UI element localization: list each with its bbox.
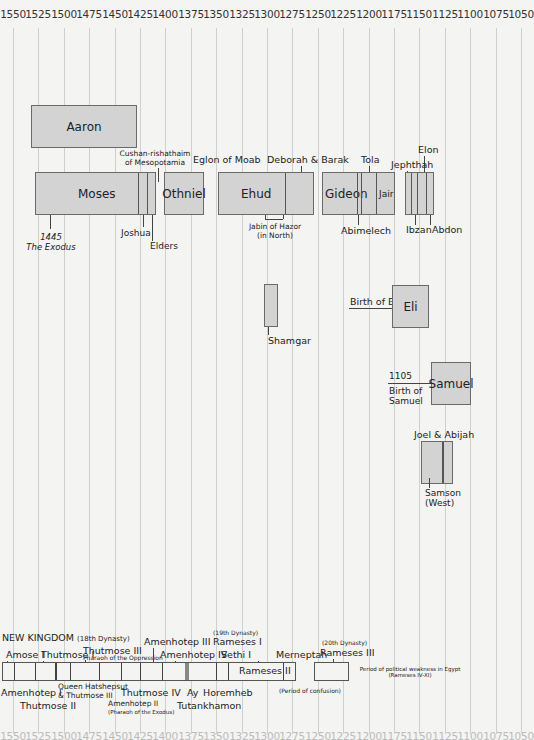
rameses2-label: Rameses II — [239, 665, 291, 676]
deborah-label: Deborah & Barak — [267, 155, 349, 166]
jabin-bracket — [265, 219, 283, 220]
samuel-label: Samuel — [429, 377, 474, 391]
abdon-tick — [430, 215, 431, 225]
eglon-label: Eglon of Moab — [193, 155, 261, 166]
new-kingdom-title: NEW KINGDOM — [2, 632, 74, 643]
gideon-box: Gideon Jair — [322, 172, 395, 215]
gridline — [496, 28, 497, 734]
amenhotep2-note: (Pharaoh of the Exodus) — [108, 709, 174, 715]
amenhotep3-label: Amenhotep III — [144, 637, 210, 648]
ibzan-divider — [411, 173, 412, 214]
elders-tick — [152, 215, 153, 241]
othniel-box: Othniel — [164, 172, 204, 215]
amose1-label: Amose I — [6, 650, 44, 661]
sethi1-label: Sethi I — [221, 650, 251, 661]
samson-tick — [429, 478, 430, 488]
rameses3-label: Rameses III — [320, 648, 374, 659]
year-label: 1525 — [25, 8, 51, 20]
gridline — [140, 28, 141, 734]
rameses1-label: Rameses I — [213, 637, 262, 648]
gridline — [165, 28, 166, 734]
tutankhamon-block — [185, 663, 189, 680]
gridline — [369, 28, 370, 734]
reign-divider — [140, 663, 141, 680]
reign-divider — [70, 663, 71, 680]
moses-box: Moses — [35, 172, 156, 215]
reign-divider — [35, 663, 36, 680]
moses-label: Moses — [78, 187, 116, 201]
ehud-label: Ehud — [241, 187, 271, 201]
shamgar-label: Shamgar — [268, 336, 311, 347]
samuel-line — [388, 383, 431, 384]
jair-divider — [376, 173, 377, 214]
year-label: 1550 — [0, 8, 26, 20]
weakness-label: Period of political weakness in Egypt(Ra… — [360, 666, 461, 679]
tutankhamon-label: Tutankhamon — [177, 701, 241, 712]
shamgar-tick — [268, 327, 269, 335]
amenhotep4-label: Amenhotep IV — [160, 650, 227, 661]
year-label: 1250 — [305, 8, 331, 20]
egypt-timeline-bar: Rameses II — [2, 662, 296, 681]
abdon-label: Abdon — [432, 225, 462, 236]
jephthah-label: Jephthah — [391, 160, 433, 171]
amenhotep1-label: Amenhotep I — [1, 688, 62, 699]
year-label: 1425 — [127, 8, 153, 20]
abdon-divider — [426, 173, 427, 214]
joel-divider — [442, 442, 444, 483]
ibzan-label: Ibzan — [406, 225, 432, 236]
eli-box: Eli — [392, 285, 429, 328]
year-label: 1050 — [508, 8, 534, 20]
confusion-label: (Period of confusion) — [279, 688, 341, 695]
tola-divider — [361, 173, 362, 214]
reign-divider — [162, 663, 163, 680]
gridline — [13, 28, 14, 734]
year-label: 1400 — [152, 8, 178, 20]
aaron-label: Aaron — [66, 120, 101, 134]
abimelech-label: Abimelech — [341, 226, 391, 237]
samson-label: Samson(West) — [425, 488, 461, 509]
minor-judges-box — [405, 172, 434, 215]
year-label: 1350 — [203, 8, 229, 20]
gridline — [318, 28, 319, 734]
gridline — [343, 28, 344, 734]
reign-divider — [99, 663, 100, 680]
year-label: 1500 — [51, 8, 77, 20]
jabin-bracket-right — [283, 215, 284, 219]
cushan-label: Cushan-rishathaimof Mesopotamia — [120, 150, 191, 167]
new-kingdom-label: NEW KINGDOM (18th Dynasty) — [2, 633, 130, 644]
samuel-year: 1105 — [389, 371, 412, 381]
jabin-bracket-left — [265, 215, 266, 219]
exodus-tick — [50, 215, 51, 229]
year-label: 1100 — [457, 8, 483, 20]
eli-line — [349, 308, 392, 309]
ay-label: Ay — [187, 688, 198, 699]
othniel-label: Othniel — [162, 187, 205, 201]
reign-divider — [56, 663, 57, 680]
cushan-tick — [158, 168, 159, 182]
rameses3-bar — [314, 662, 349, 681]
dynasty18-label: (18th Dynasty) — [77, 635, 130, 643]
year-label: 1325 — [229, 8, 255, 20]
hatshepsut-label: Queen Hatshepsut& Thutmose III — [58, 683, 128, 700]
year-label: 1300 — [254, 8, 280, 20]
year-label: 1175 — [381, 8, 407, 20]
joshua-label: Joshua — [121, 228, 151, 238]
year-label: 1475 — [76, 8, 102, 20]
gridline — [191, 28, 192, 734]
joshua-divider — [138, 173, 139, 214]
year-label: 1275 — [279, 8, 305, 20]
eli-label: Eli — [403, 300, 417, 314]
jabin-label: Jabin of Hazor(in North) — [249, 223, 301, 240]
samson-box — [421, 441, 453, 484]
tola-label: Tola — [361, 155, 379, 166]
year-label: 1150 — [406, 8, 432, 20]
reign-divider — [216, 663, 217, 680]
amenhotep2-label: Amenhotep II — [108, 700, 158, 709]
year-label: 1125 — [432, 8, 458, 20]
elders-divider — [147, 173, 148, 214]
reign-divider — [121, 663, 122, 680]
thutmose4-label: Thutmose IV — [121, 688, 181, 699]
shamgar-box — [264, 284, 278, 327]
elon-divider — [417, 173, 418, 214]
thutmose2-label: Thutmose II — [20, 701, 76, 712]
